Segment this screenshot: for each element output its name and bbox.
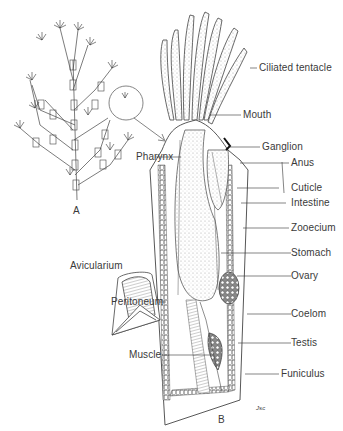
label-anus: Anus bbox=[291, 158, 314, 168]
label-avicularium: Avicularium bbox=[70, 261, 123, 271]
bryozoan-anatomy-diagram: Ciliated tentacle Mouth Ganglion Anus Ph… bbox=[0, 0, 343, 431]
zooid-drawing bbox=[112, 12, 291, 425]
label-stomach: Stomach bbox=[291, 248, 331, 258]
label-zooecium: Zooecium bbox=[291, 223, 336, 233]
label-coelom: Coelom bbox=[291, 309, 326, 319]
label-funiculus: Funiculus bbox=[281, 369, 325, 379]
colony-sketch bbox=[14, 20, 165, 200]
label-cuticle: Cuticle bbox=[291, 183, 322, 193]
label-peritoneum: Peritoneum bbox=[111, 297, 163, 307]
panel-b-label: B bbox=[218, 414, 225, 425]
label-ganglion: Ganglion bbox=[262, 142, 303, 152]
label-mouth: Mouth bbox=[243, 110, 271, 120]
label-intestine: Intestine bbox=[291, 198, 330, 208]
panel-a-label: A bbox=[73, 205, 80, 216]
label-testis: Testis bbox=[291, 338, 317, 348]
label-muscle: Muscle bbox=[129, 350, 161, 360]
label-ovary: Ovary bbox=[291, 271, 318, 281]
label-ciliated-tentacle: Ciliated tentacle bbox=[259, 63, 332, 73]
label-pharynx: Pharynx bbox=[136, 152, 173, 162]
artist-signature: Jsc bbox=[256, 403, 265, 413]
